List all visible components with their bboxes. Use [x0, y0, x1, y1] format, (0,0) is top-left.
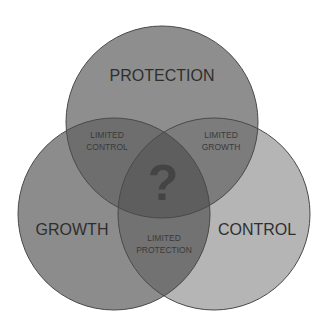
limited-protection-line1: LIMITED	[147, 233, 181, 243]
protection-label: PROTECTION	[110, 67, 215, 84]
limited-protection-line2: PROTECTION	[136, 245, 192, 255]
limited-growth-line1: LIMITED	[204, 130, 238, 140]
control-label: CONTROL	[218, 221, 296, 238]
venn-diagram: PROTECTION GROWTH CONTROL LIMITED CONTRO…	[0, 0, 329, 330]
limited-control-line1: LIMITED	[90, 130, 124, 140]
limited-control-line2: CONTROL	[86, 142, 128, 152]
limited-growth-line2: GROWTH	[202, 142, 241, 152]
question-mark-icon: ?	[148, 155, 179, 211]
growth-label: GROWTH	[36, 221, 109, 238]
